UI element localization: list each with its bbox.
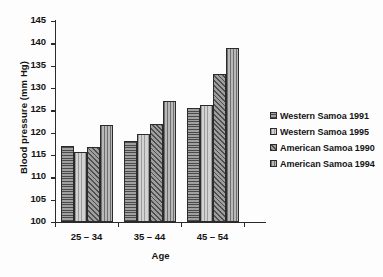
bar (124, 141, 137, 222)
bar-fill (227, 49, 238, 221)
y-tick-label: 115 (31, 148, 46, 159)
y-tick-label: 110 (31, 170, 46, 181)
legend-item: Western Samoa 1995 (270, 124, 375, 139)
bar (74, 152, 87, 222)
y-tick-label: 140 (30, 36, 46, 47)
x-category-label: 35 – 44 (118, 231, 181, 242)
y-axis-title: Blood pressure (mm Hg) (18, 33, 29, 203)
x-tick-mark (181, 222, 182, 227)
bar (61, 146, 74, 222)
bar-fill (75, 153, 86, 221)
legend-swatch-icon (270, 160, 277, 167)
legend-swatch-icon (270, 112, 277, 119)
y-tick-label: 145 (30, 14, 46, 25)
legend-item: Western Samoa 1991 (270, 108, 375, 123)
legend-swatch-icon (270, 128, 277, 135)
bar (100, 125, 113, 222)
legend-item: American Samoa 1990 (270, 140, 375, 155)
bars-layer (55, 21, 266, 222)
bar-fill (151, 125, 162, 221)
x-category-label: 45 – 54 (181, 231, 244, 242)
legend-label: American Samoa 1994 (280, 159, 375, 169)
legend-label: Western Samoa 1991 (280, 111, 369, 121)
x-axis-line (55, 222, 266, 223)
bar (187, 108, 200, 222)
y-tick-label: 135 (30, 59, 46, 70)
x-tick-mark (55, 222, 56, 227)
legend-label: American Samoa 1990 (280, 143, 375, 153)
bar-fill (88, 148, 99, 221)
bar (87, 147, 100, 222)
bar (226, 48, 239, 222)
x-tick-mark (118, 222, 119, 227)
y-tick-label: 125 (30, 103, 46, 114)
bar (163, 101, 176, 222)
bar-fill (188, 109, 199, 221)
bar (137, 134, 150, 222)
bar-fill (214, 75, 225, 221)
legend-label: Western Samoa 1995 (280, 127, 369, 137)
x-category-label: 25 – 34 (55, 231, 118, 242)
y-tick-label: 105 (30, 193, 46, 204)
x-axis-title: Age (55, 250, 266, 261)
y-tick-label: 130 (30, 81, 46, 92)
bar (150, 124, 163, 222)
bar (200, 105, 213, 222)
bar-fill (125, 142, 136, 221)
x-tick-mark (244, 222, 245, 227)
y-tick-label: 100 (30, 215, 46, 226)
bar (213, 74, 226, 222)
legend-item: American Samoa 1994 (270, 156, 375, 171)
bar-fill (62, 147, 73, 221)
bar-fill (164, 102, 175, 221)
chart-legend: Western Samoa 1991Western Samoa 1995Amer… (270, 108, 375, 172)
bar-fill (101, 126, 112, 221)
bar-fill (138, 135, 149, 221)
bar-fill (201, 106, 212, 221)
legend-swatch-icon (270, 144, 277, 151)
y-tick-label: 120 (30, 126, 46, 137)
bar-chart: Blood pressure (mm Hg) 10010511011512012… (0, 0, 383, 277)
